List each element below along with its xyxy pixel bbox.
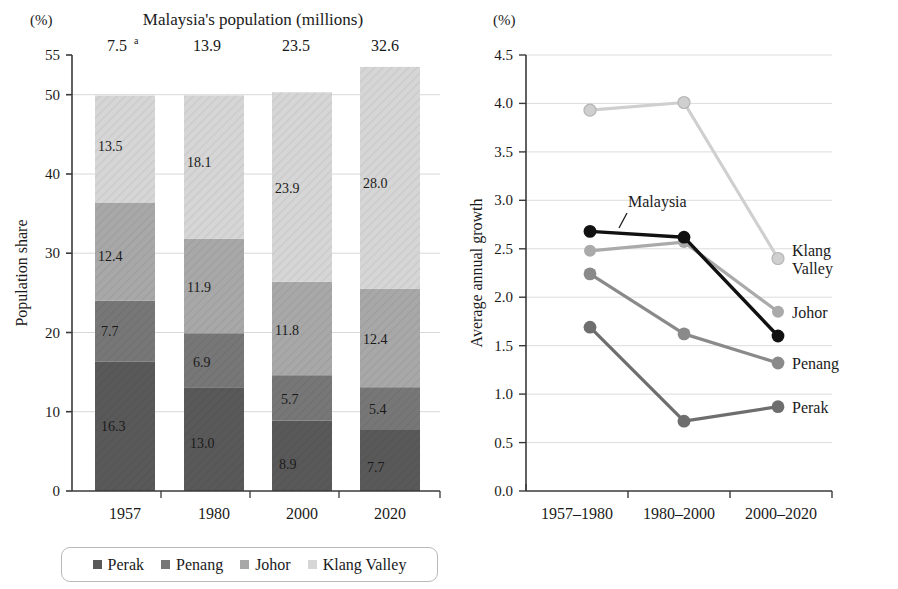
right-ytick-0-5: 0.5 — [494, 435, 513, 451]
left-ytick-30: 30 — [45, 245, 60, 261]
top-value-1957: 7.5 — [107, 37, 127, 54]
right-unit-label: (%) — [493, 12, 516, 29]
right-xtick-2000-2020: 2000–2020 — [745, 505, 817, 522]
legend-item-klang-valley[interactable]: Klang Valley — [308, 557, 407, 573]
bar-1980[interactable]: 13.0 6.9 11.9 18.1 — [184, 95, 244, 491]
series-label-perak: Perak — [792, 399, 828, 416]
point-malaysia-1957-1980[interactable] — [584, 225, 597, 238]
left-y-axis-title: Population share — [13, 219, 31, 326]
average-annual-growth-chart: (%) 4.5 4.0 3.5 — [460, 0, 898, 589]
malaysia-annotation-label: Malaysia — [628, 193, 687, 211]
seg-label-2000-klang: 23.9 — [275, 181, 300, 196]
top-value-2000: 23.5 — [282, 37, 310, 54]
seg-label-2020-perak: 7.7 — [367, 460, 385, 475]
right-y-axis — [519, 55, 526, 491]
left-ytick-55: 55 — [45, 47, 60, 63]
seg-label-2000-perak: 8.9 — [279, 457, 297, 472]
chart-legend: Perak Penang Johor Klang Valley — [61, 547, 438, 582]
right-ytick-2-0: 2.0 — [494, 289, 513, 305]
legend-label-perak: Perak — [108, 557, 144, 573]
seg-label-2000-johor: 11.8 — [275, 323, 299, 338]
point-perak-1957-1980[interactable] — [584, 321, 597, 334]
left-xtick-1957: 1957 — [109, 505, 141, 522]
left-x-axis — [72, 491, 440, 498]
seg-label-1980-penang: 6.9 — [193, 355, 211, 370]
seg-label-2020-johor: 12.4 — [363, 332, 388, 347]
right-gridlines — [526, 55, 832, 443]
left-xtick-2020: 2020 — [374, 505, 406, 522]
top-value-2020: 32.6 — [371, 37, 399, 54]
left-ytick-20: 20 — [45, 325, 60, 341]
left-y-axis — [66, 55, 72, 491]
legend-label-klang-valley: Klang Valley — [323, 557, 407, 573]
left-xtick-1980: 1980 — [198, 505, 230, 522]
legend-swatch-perak — [93, 560, 102, 569]
left-ytick-10: 10 — [45, 404, 60, 420]
seg-label-1957-perak: 16.3 — [101, 419, 126, 434]
point-klang-2000-2020[interactable] — [772, 253, 784, 265]
right-y-axis-title: Average annual growth — [468, 199, 486, 348]
point-penang-1980-2000[interactable] — [678, 328, 691, 341]
legend-item-perak[interactable]: Perak — [93, 557, 144, 573]
malaysia-annotation: Malaysia — [619, 193, 687, 228]
right-x-axis — [526, 484, 832, 498]
right-xtick-1980-2000: 1980–2000 — [643, 505, 715, 522]
left-ytick-0: 0 — [53, 483, 61, 499]
legend-swatch-penang — [161, 560, 170, 569]
right-ytick-4-5: 4.5 — [494, 47, 513, 63]
point-klang-1957-1980[interactable] — [584, 104, 596, 116]
seg-label-1957-johor: 12.4 — [98, 249, 123, 264]
legend-label-penang: Penang — [176, 557, 223, 573]
point-klang-1980-2000[interactable] — [678, 97, 690, 109]
point-johor-1957-1980[interactable] — [584, 245, 596, 257]
legend-swatch-klang-valley — [308, 560, 317, 569]
series-label-penang: Penang — [792, 355, 839, 373]
figure-container: (%) Malaysia's population (millions) 7.5… — [0, 0, 898, 589]
seg-label-1980-perak: 13.0 — [190, 436, 215, 451]
point-malaysia-1980-2000[interactable] — [678, 231, 691, 244]
legend-swatch-johor — [240, 560, 249, 569]
left-ytick-50: 50 — [45, 87, 60, 103]
bar-1957[interactable]: 16.3 7.7 12.4 13.5 — [95, 96, 155, 492]
seg-label-1980-klang: 18.1 — [187, 155, 212, 170]
right-ytick-2-5: 2.5 — [494, 241, 513, 257]
left-unit-label: (%) — [30, 12, 53, 29]
right-ytick-4-0: 4.0 — [494, 95, 513, 111]
right-ytick-3-0: 3.0 — [494, 192, 513, 208]
legend-label-johor: Johor — [255, 557, 291, 573]
seg-label-1957-klang: 13.5 — [98, 139, 123, 154]
point-malaysia-2000-2020[interactable] — [772, 330, 785, 343]
series-penang[interactable] — [584, 268, 785, 370]
seg-label-2020-klang: 28.0 — [363, 176, 388, 191]
point-perak-1980-2000[interactable] — [678, 415, 691, 428]
legend-item-penang[interactable]: Penang — [161, 557, 223, 573]
left-ytick-40: 40 — [45, 166, 60, 182]
top-value-1980: 13.9 — [193, 37, 221, 54]
seg-label-1957-penang: 7.7 — [101, 324, 119, 339]
bar-2000[interactable]: 8.9 5.7 11.8 23.9 — [272, 92, 332, 491]
series-label-klang-line2: Valley — [792, 260, 833, 278]
legend-item-johor[interactable]: Johor — [240, 557, 291, 573]
seg-label-2020-penang: 5.4 — [369, 402, 387, 417]
right-ytick-3-5: 3.5 — [494, 144, 513, 160]
point-penang-1957-1980[interactable] — [584, 268, 597, 281]
seg-label-2000-penang: 5.7 — [281, 392, 299, 407]
series-label-klang-line1: Klang — [792, 242, 831, 260]
population-share-chart: (%) Malaysia's population (millions) 7.5… — [0, 0, 460, 589]
right-ytick-0-0: 0.0 — [494, 483, 513, 499]
left-xtick-2000: 2000 — [286, 505, 318, 522]
right-xtick-1957-1980: 1957–1980 — [541, 505, 613, 522]
series-label-johor: Johor — [792, 304, 828, 321]
top-value-superscript: a — [134, 35, 139, 46]
series-malaysia[interactable] — [584, 225, 785, 342]
point-penang-2000-2020[interactable] — [772, 357, 785, 370]
point-johor-2000-2020[interactable] — [772, 306, 784, 318]
right-ytick-1-5: 1.5 — [494, 338, 513, 354]
left-chart-title: Malaysia's population (millions) — [143, 10, 363, 29]
bar-2020[interactable]: 7.7 5.4 12.4 28.0 — [360, 67, 420, 491]
right-ytick-1-0: 1.0 — [494, 386, 513, 402]
seg-label-1980-johor: 11.9 — [187, 280, 211, 295]
point-perak-2000-2020[interactable] — [772, 400, 785, 413]
